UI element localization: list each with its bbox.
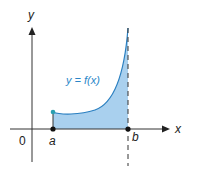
point-b-dot [125, 126, 130, 131]
point-a-top-dot [51, 110, 56, 115]
origin-label: 0 [19, 134, 26, 148]
point-a-label: a [49, 134, 56, 148]
x-axis-arrow-icon [162, 126, 170, 133]
curve-label: y = f(x) [65, 74, 100, 86]
point-a-dot [50, 126, 55, 131]
point-b-label: b [132, 130, 139, 144]
y-axis-label: y [27, 8, 35, 22]
y-axis-arrow-icon [29, 27, 36, 35]
area-under-curve-diagram: y x 0 a b y = f(x) [0, 0, 200, 171]
x-axis-label: x [174, 122, 182, 136]
